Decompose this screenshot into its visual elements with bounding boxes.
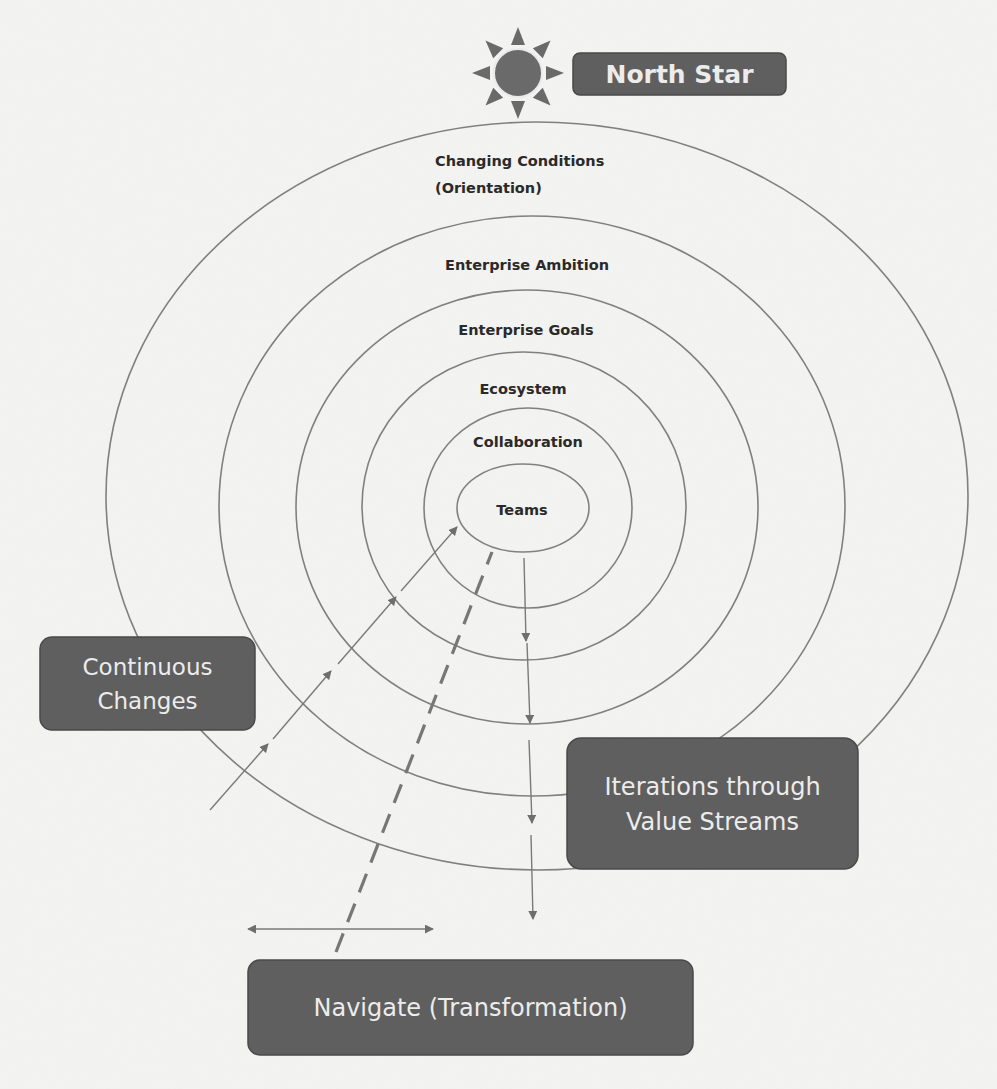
iterations-line-1: Iterations through <box>604 773 820 801</box>
label-teams: Teams <box>496 502 547 518</box>
continuous-changes-line-1: Continuous <box>83 654 213 680</box>
label-collaboration: Collaboration <box>473 434 583 450</box>
navigate-box: Navigate (Transformation) <box>248 960 693 1055</box>
sun-icon <box>472 27 564 119</box>
iterations-box: Iterations through Value Streams <box>567 738 858 869</box>
label-enterprise-ambition: Enterprise Ambition <box>445 257 609 273</box>
label-enterprise-goals: Enterprise Goals <box>458 322 593 338</box>
navigate-label: Navigate (Transformation) <box>313 994 627 1022</box>
label-changing-conditions: Changing Conditions <box>435 153 604 169</box>
label-orientation: (Orientation) <box>435 180 542 196</box>
label-ecosystem: Ecosystem <box>479 381 566 397</box>
north-star-label: North Star <box>605 60 754 89</box>
north-star-badge: North Star <box>573 53 786 95</box>
continuous-changes-line-2: Changes <box>97 688 197 714</box>
iterations-line-2: Value Streams <box>626 808 799 836</box>
diagram-canvas: North Star Changing Conditions (Orientat… <box>0 0 997 1089</box>
continuous-changes-box: Continuous Changes <box>40 637 255 730</box>
